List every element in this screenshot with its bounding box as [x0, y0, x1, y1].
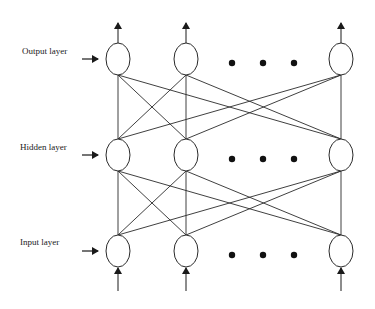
neuron-nodes — [106, 43, 353, 267]
ellipsis-dot-icon — [260, 156, 266, 162]
output-neuron-node — [106, 43, 130, 75]
ellipsis-dot-icon — [260, 60, 266, 66]
hidden-neuron-node — [174, 139, 198, 171]
output-neuron-node — [174, 43, 198, 75]
ellipsis-dot-icon — [229, 156, 235, 162]
ellipsis-dot-icon — [260, 252, 266, 258]
ellipsis-dot-icon — [229, 252, 235, 258]
ellipsis-dot-icon — [291, 252, 297, 258]
connection-lines — [118, 75, 341, 235]
output-neuron-node — [329, 43, 353, 75]
hidden-neuron-node — [329, 139, 353, 171]
ellipsis-dot-icon — [291, 156, 297, 162]
hidden-neuron-node — [106, 139, 130, 171]
input-neuron-node — [106, 235, 130, 267]
input-neuron-node — [174, 235, 198, 267]
ellipsis-dot-icon — [291, 60, 297, 66]
input-neuron-node — [329, 235, 353, 267]
output-layer-label: Output layer — [22, 46, 67, 56]
ellipsis-dots — [229, 60, 297, 258]
hidden-layer-label: Hidden layer — [20, 142, 67, 152]
input-layer-label: Input layer — [20, 237, 59, 247]
ellipsis-dot-icon — [229, 60, 235, 66]
